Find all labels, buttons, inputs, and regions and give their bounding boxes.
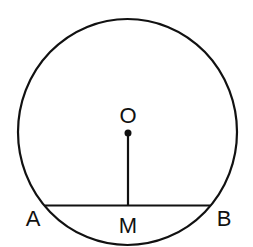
label-b: B	[217, 206, 232, 231]
circle-chord-diagram: O A M B	[0, 0, 253, 247]
label-o: O	[119, 103, 136, 128]
label-a: A	[26, 206, 41, 231]
label-m: M	[119, 213, 137, 238]
center-point	[125, 130, 132, 137]
